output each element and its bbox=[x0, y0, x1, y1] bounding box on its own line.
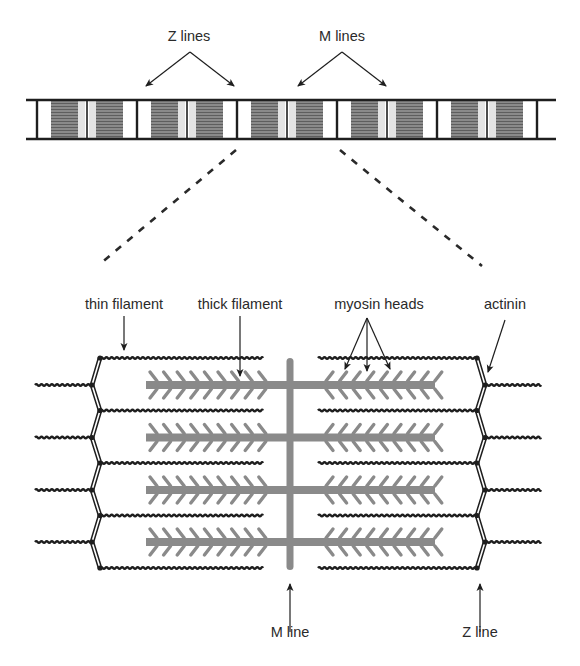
myosin-head bbox=[367, 425, 374, 434]
myosin-head bbox=[353, 442, 360, 451]
thin-filament bbox=[100, 515, 263, 517]
arrow bbox=[190, 52, 234, 86]
z-node bbox=[89, 539, 94, 544]
myosin-head bbox=[326, 494, 333, 503]
myosin-head bbox=[421, 477, 428, 486]
top-label-arrows bbox=[146, 52, 386, 86]
myosin-head bbox=[204, 546, 211, 555]
myosin-head bbox=[326, 442, 333, 451]
myosin-head bbox=[421, 389, 428, 398]
myosin-head bbox=[191, 494, 198, 503]
myosin-head bbox=[421, 546, 428, 555]
myosin-head bbox=[408, 494, 415, 503]
myosin-head bbox=[232, 372, 239, 381]
myosin-head bbox=[177, 529, 184, 538]
dashed-guide bbox=[340, 150, 482, 266]
myosin-head bbox=[245, 389, 252, 398]
diagram-canvas bbox=[0, 0, 580, 666]
thin-filament bbox=[318, 410, 477, 412]
myosin-head bbox=[340, 425, 347, 434]
myosin-head bbox=[232, 442, 239, 451]
myosin-head bbox=[408, 425, 415, 434]
myosin-head bbox=[177, 494, 184, 503]
myosin-head bbox=[245, 477, 252, 486]
myosin-head bbox=[380, 442, 387, 451]
myosin-head bbox=[204, 494, 211, 503]
thin-filament bbox=[318, 567, 477, 569]
h-zone bbox=[178, 100, 185, 139]
myosin-head bbox=[259, 477, 266, 486]
z-node bbox=[482, 435, 487, 440]
z-node bbox=[474, 460, 479, 465]
outer-thin-filament bbox=[35, 384, 92, 386]
myosin-head bbox=[435, 372, 442, 381]
myosin-head bbox=[232, 389, 239, 398]
myosin-head bbox=[150, 442, 157, 451]
z-node bbox=[474, 513, 479, 518]
a-band-dark bbox=[396, 100, 423, 139]
myosin-head bbox=[367, 546, 374, 555]
myosin-head bbox=[435, 546, 442, 555]
h-zone bbox=[289, 100, 296, 139]
sarcomere-diagram: Z lines M lines thin filament thick fila… bbox=[0, 0, 580, 666]
myosin-head bbox=[177, 425, 184, 434]
myosin-head bbox=[394, 389, 401, 398]
h-zone bbox=[378, 100, 385, 139]
myosin-head bbox=[232, 477, 239, 486]
myosin-head bbox=[245, 529, 252, 538]
a-band-dark bbox=[351, 100, 378, 139]
z-node bbox=[474, 355, 479, 360]
myosin-head bbox=[380, 546, 387, 555]
z-node bbox=[482, 539, 487, 544]
myosin-head bbox=[164, 529, 171, 538]
m-line bbox=[287, 358, 294, 570]
detail-label-arrows bbox=[124, 316, 505, 632]
thin-filament bbox=[100, 567, 263, 569]
myosin-head bbox=[259, 389, 266, 398]
myosin-head bbox=[353, 546, 360, 555]
label-thick-filament: thick filament bbox=[198, 297, 283, 312]
pointer-arrow bbox=[345, 318, 367, 369]
myosin-head bbox=[150, 389, 157, 398]
myosin-head bbox=[326, 546, 333, 555]
myosin-head bbox=[367, 494, 374, 503]
outer-thin-filament bbox=[35, 489, 92, 491]
myosin-head bbox=[367, 477, 374, 486]
myosin-head bbox=[245, 546, 252, 555]
myosin-head bbox=[245, 372, 252, 381]
myosin-head bbox=[259, 546, 266, 555]
myosin-head bbox=[259, 494, 266, 503]
z-node bbox=[474, 565, 479, 570]
myosin-head bbox=[204, 389, 211, 398]
outer-thin-filament bbox=[485, 489, 541, 491]
a-band-dark bbox=[96, 100, 123, 139]
myosin-head bbox=[259, 425, 266, 434]
myosin-head bbox=[245, 442, 252, 451]
myosin-head bbox=[408, 546, 415, 555]
myosin-head bbox=[164, 494, 171, 503]
h-zone bbox=[489, 100, 496, 139]
label-z-line: Z line bbox=[462, 625, 497, 640]
z-node bbox=[89, 435, 94, 440]
myosin-head bbox=[259, 442, 266, 451]
outer-thin-filament bbox=[485, 541, 541, 543]
myosin-head bbox=[435, 425, 442, 434]
myosin-head bbox=[177, 477, 184, 486]
a-band-dark bbox=[251, 100, 278, 139]
myosin-head bbox=[380, 529, 387, 538]
myosin-head bbox=[408, 529, 415, 538]
z-node bbox=[474, 408, 479, 413]
myosin-head bbox=[353, 529, 360, 538]
myosin-head bbox=[353, 372, 360, 381]
arrow bbox=[298, 52, 342, 86]
myosin-head bbox=[326, 529, 333, 538]
outer-thin-filament bbox=[35, 437, 92, 439]
myosin-head bbox=[380, 494, 387, 503]
myosin-head bbox=[150, 477, 157, 486]
myosin-head bbox=[367, 529, 374, 538]
label-z-lines: Z lines bbox=[168, 29, 211, 44]
outer-thin-filament bbox=[35, 541, 92, 543]
myosin-head bbox=[259, 529, 266, 538]
myosin-head bbox=[435, 442, 442, 451]
myosin-head bbox=[421, 442, 428, 451]
